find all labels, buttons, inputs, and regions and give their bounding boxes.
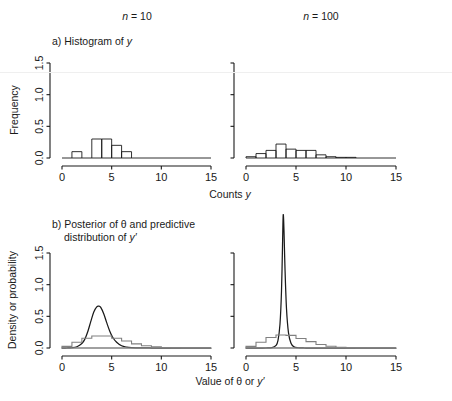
panel-posterior-n100-xtick-label-3: 15 bbox=[390, 361, 402, 373]
panel-hist-n100-xtick-label-3: 15 bbox=[390, 171, 402, 183]
panel-posterior-n10-ytick-label-1: 0.5 bbox=[33, 309, 45, 324]
panel-posterior-n10-ytick-label-0: 0.0 bbox=[33, 341, 45, 356]
panel-a-title: a) Histogram of y bbox=[52, 35, 133, 47]
panel-a-ylabel: Frequency bbox=[8, 84, 20, 134]
panel-hist-n100-xtick-label-1: 5 bbox=[293, 171, 299, 183]
panel-posterior-n10-data-layer bbox=[62, 306, 211, 348]
panel-hist-n10-data-layer bbox=[62, 139, 211, 158]
panel-b-title-line1: b) Posterior of θ and predictive bbox=[52, 218, 195, 230]
figure-canvas: n = 10n = 100a) Histogram of yb) Posteri… bbox=[0, 0, 452, 401]
panel-hist-n10-bars bbox=[72, 139, 132, 158]
panel-hist-n10-ytick-label-2: 1.0 bbox=[33, 87, 45, 102]
panel-hist-n10-xtick-label-0: 0 bbox=[59, 171, 65, 183]
panel-hist-n100-xtick-label-2: 10 bbox=[340, 171, 352, 183]
panel-posterior-n10-ytick-label-2: 1.0 bbox=[33, 277, 45, 292]
panel-posterior-n100-data-layer bbox=[246, 215, 396, 348]
panel-posterior-n100-predictive-step bbox=[246, 335, 396, 348]
panel-posterior-n100-xtick-label-2: 10 bbox=[340, 361, 352, 373]
panel-b-ylabel: Density or probability bbox=[6, 250, 18, 349]
column-title-n10: n = 10 bbox=[122, 10, 152, 22]
column-title-n100: n = 100 bbox=[303, 10, 338, 22]
panel-b-title-line2: distribution of y′ bbox=[64, 231, 138, 243]
panel-hist-n100-xtick-label-0: 0 bbox=[243, 171, 249, 183]
panel-hist-n10-xtick-label-2: 10 bbox=[155, 171, 167, 183]
panel-hist-n10-ytick-label-3: 1.5 bbox=[33, 56, 45, 71]
panel-posterior-n10-predictive-step bbox=[62, 336, 211, 348]
panel-posterior-n10-posterior-curve bbox=[62, 306, 211, 348]
panel-hist-n10-xtick-label-3: 15 bbox=[205, 171, 217, 183]
panel-a-xlabel: Counts y bbox=[209, 188, 251, 200]
figure-root: n = 10n = 100a) Histogram of yb) Posteri… bbox=[0, 0, 452, 401]
panel-posterior-n10-xtick-label-0: 0 bbox=[59, 361, 65, 373]
panel-hist-n10-ytick-label-0: 0.0 bbox=[33, 151, 45, 166]
panel-hist-n10-ytick-label-1: 0.5 bbox=[33, 119, 45, 134]
panel-posterior-n10-xtick-label-3: 15 bbox=[205, 361, 217, 373]
page-band bbox=[0, 72, 452, 73]
panel-hist-n100-bars bbox=[246, 144, 356, 158]
panel-posterior-n10-xtick-label-2: 10 bbox=[155, 361, 167, 373]
panel-hist-n100-data-layer bbox=[246, 144, 396, 158]
panel-posterior-n100-xtick-label-0: 0 bbox=[243, 361, 249, 373]
panel-posterior-n10-ytick-label-3: 1.5 bbox=[33, 246, 45, 261]
panel-posterior-n10-xtick-label-1: 5 bbox=[109, 361, 115, 373]
panel-b-xlabel: Value of θ or y′ bbox=[196, 375, 266, 387]
panel-hist-n10-xtick-label-1: 5 bbox=[109, 171, 115, 183]
panel-posterior-n100-posterior-curve bbox=[246, 215, 396, 348]
panel-posterior-n100-xtick-label-1: 5 bbox=[293, 361, 299, 373]
